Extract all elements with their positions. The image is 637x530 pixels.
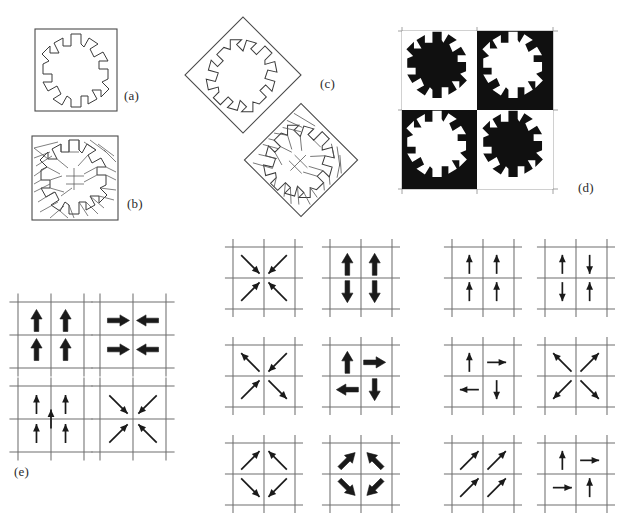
grid-e-4 xyxy=(91,377,174,460)
grid-m-4 xyxy=(322,337,400,415)
grid-e-2 xyxy=(91,293,174,376)
arrow-head xyxy=(564,484,572,491)
arrow-head xyxy=(559,294,566,302)
arrow-head xyxy=(493,255,500,262)
grid-m-3-lines xyxy=(225,337,303,415)
grid-m-1 xyxy=(225,239,303,317)
grid-r-4-lines xyxy=(537,337,615,415)
arrow-glyph xyxy=(107,315,129,326)
grid-e-1 xyxy=(9,293,92,376)
arrow-grids-layer xyxy=(0,0,637,530)
grid-m-1-lines xyxy=(225,239,303,317)
arrow-head xyxy=(559,451,566,459)
arrow-glyph xyxy=(369,253,380,275)
arrow-glyph xyxy=(369,379,380,401)
arrow-head xyxy=(466,255,473,262)
arrow-glyph xyxy=(137,315,159,326)
grid-m-6 xyxy=(322,435,400,513)
arrow-head xyxy=(586,266,593,274)
grid-m-6-lines xyxy=(322,435,400,513)
figure-canvas: (a) xyxy=(0,0,637,530)
grid-e-3 xyxy=(9,377,92,460)
arrow-glyph xyxy=(338,478,355,495)
arrow-head xyxy=(33,424,40,432)
grid-m-3 xyxy=(225,337,303,415)
grid-r-4 xyxy=(537,337,615,415)
grid-e-4-lines xyxy=(91,377,174,460)
grid-m-2-lines xyxy=(322,239,400,317)
arrow-glyph xyxy=(342,253,353,275)
arrow-head xyxy=(493,392,500,400)
arrow-head xyxy=(493,282,500,290)
arrow-head xyxy=(586,478,593,486)
arrow-head xyxy=(586,282,593,290)
arrow-glyph xyxy=(137,344,159,355)
arrow-glyph xyxy=(367,453,384,470)
grid-m-2 xyxy=(322,239,400,317)
grid-r-1 xyxy=(444,239,522,317)
grid-r-6 xyxy=(537,435,615,513)
arrow-glyph xyxy=(31,339,42,361)
grid-r-5-lines xyxy=(444,435,522,513)
arrow-glyph xyxy=(364,357,386,368)
arrow-glyph xyxy=(342,281,353,303)
arrow-glyph xyxy=(60,339,71,361)
arrow-head xyxy=(466,282,473,290)
arrow-head xyxy=(62,395,69,403)
arrow-glyph xyxy=(107,344,129,355)
arrow-glyph xyxy=(342,351,353,373)
arrow-glyph xyxy=(369,281,380,303)
grid-m-5 xyxy=(225,435,303,513)
arrow-glyph xyxy=(338,453,355,470)
grid-r-3-lines xyxy=(444,337,522,415)
arrow-head xyxy=(62,424,69,432)
grid-r-2 xyxy=(537,239,615,317)
arrow-head xyxy=(466,353,473,361)
arrow-glyph xyxy=(31,309,42,331)
grid-r-6-lines xyxy=(537,435,615,513)
arrow-head xyxy=(460,386,468,393)
grid-r-1-lines xyxy=(444,239,522,317)
grid-e-2-lines xyxy=(91,293,174,376)
arrow-glyph xyxy=(336,384,358,395)
arrow-head xyxy=(48,410,55,418)
arrow-head xyxy=(499,359,507,366)
grid-r-5 xyxy=(444,435,522,513)
grid-m-4-lines xyxy=(322,337,400,415)
arrow-head xyxy=(33,395,40,403)
grid-e-1-lines xyxy=(9,293,92,376)
grid-r-2-lines xyxy=(537,239,615,317)
arrow-glyph xyxy=(367,478,384,495)
arrow-head xyxy=(559,255,566,262)
grid-r-3 xyxy=(444,337,522,415)
grid-m-5-lines xyxy=(225,435,303,513)
arrow-glyph xyxy=(60,309,71,331)
arrow-head xyxy=(592,457,600,464)
